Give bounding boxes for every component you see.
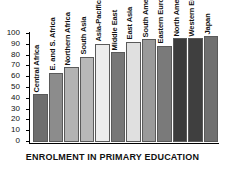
bar — [157, 46, 172, 142]
bar-slot: North America — [173, 34, 188, 142]
bar — [80, 57, 95, 142]
bar — [204, 36, 219, 142]
bar-slot: Western Europe — [188, 34, 203, 142]
y-tick-label: 50 — [11, 83, 20, 91]
bar-slot: East Asia — [126, 34, 141, 142]
bar-slot: Central Africa — [33, 34, 48, 142]
bar-category-label: E. and S. Africa — [48, 18, 56, 71]
bar-category-label: Middle East — [110, 10, 118, 51]
y-tick-label: 30 — [11, 105, 20, 113]
bar-slot: South Asia — [80, 34, 95, 142]
bar-slot: E. and S. Africa — [49, 34, 64, 142]
y-tick-label: 100 — [7, 29, 20, 37]
x-axis-line — [29, 143, 219, 144]
y-tick-label: 70 — [11, 61, 20, 69]
bar-category-label: South America — [141, 0, 149, 37]
bar-slot: Asia-Pacific — [95, 34, 110, 142]
bar-category-label: Eastern Europe — [157, 0, 165, 44]
bar-slot: Japan — [204, 34, 219, 142]
bar-category-label: East Asia — [126, 7, 134, 40]
bar — [142, 39, 157, 142]
x-axis-title: ENROLMENT IN PRIMARY EDUCATION — [0, 152, 225, 162]
y-tick-label: 0 — [16, 137, 20, 145]
bar — [173, 38, 188, 142]
bar — [33, 94, 48, 142]
y-tick-label: 80 — [11, 51, 20, 59]
enrolment-bar-chart: 0102030405060708090100 Central AfricaE. … — [0, 0, 225, 170]
y-tick-label: 40 — [11, 94, 20, 102]
bar — [95, 44, 110, 142]
bar-category-label: Asia-Pacific — [95, 0, 103, 41]
y-tick-label: 10 — [11, 126, 20, 134]
bar — [188, 38, 203, 142]
bar-slot: Northern Africa — [64, 34, 79, 142]
plot-area: 0102030405060708090100 Central AfricaE. … — [30, 34, 218, 142]
bar-slot: Eastern Europe — [157, 34, 172, 142]
bar-category-label: Northern Africa — [64, 12, 72, 65]
bar-slot: South America — [142, 34, 157, 142]
bar — [126, 42, 141, 142]
bar-category-label: North America — [172, 0, 180, 36]
bar-category-label: South Asia — [79, 17, 87, 55]
y-tick-label: 90 — [11, 40, 20, 48]
bar-category-label: Japan — [203, 13, 211, 34]
bar — [49, 73, 64, 142]
bar-series: Central AfricaE. and S. AfricaNorthern A… — [30, 34, 218, 142]
bar — [64, 67, 79, 142]
y-tick-label: 60 — [11, 72, 20, 80]
bar — [111, 52, 126, 142]
bar-slot: Middle East — [111, 34, 126, 142]
bar-category-label: Western Europe — [188, 0, 196, 36]
bar-category-label: Central Africa — [33, 45, 41, 93]
y-tick-label: 20 — [11, 115, 20, 123]
